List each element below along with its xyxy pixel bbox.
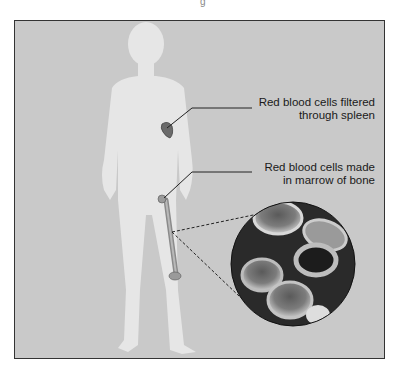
spleen-label-line2: through spleen [259, 109, 375, 122]
diagram-art [0, 0, 400, 375]
marrow-label-line1: Red blood cells made [264, 161, 375, 174]
marrow-label-line2: in marrow of bone [264, 174, 375, 187]
spleen-label: Red blood cells filtered through spleen [259, 96, 375, 122]
marrow-label: Red blood cells made in marrow of bone [264, 161, 375, 187]
magnified-red-blood-cells [231, 202, 355, 326]
human-silhouette [102, 22, 196, 354]
spleen-label-line1: Red blood cells filtered [259, 96, 375, 109]
